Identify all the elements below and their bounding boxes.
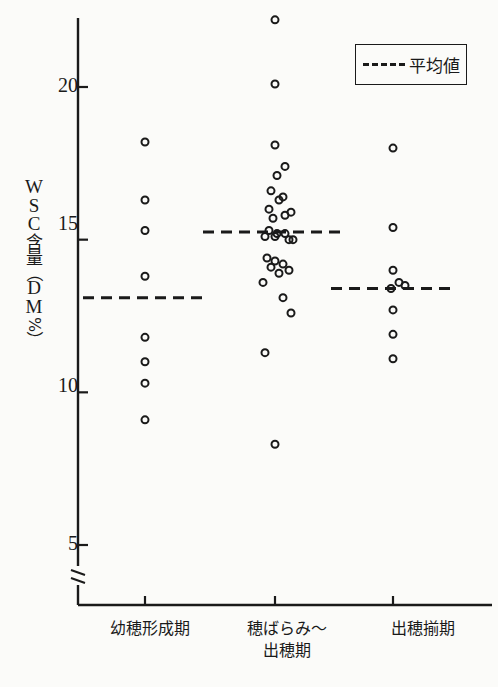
- series-group-3: [388, 145, 409, 363]
- data-point: [142, 334, 149, 341]
- data-point: [142, 196, 149, 203]
- chart-figure: W S C 含 量 （ D M % ） 20 15 10 5 平均値 幼穂形成期…: [0, 0, 498, 687]
- data-point: [268, 187, 275, 194]
- data-point: [274, 172, 281, 179]
- data-point: [266, 206, 273, 213]
- data-point: [272, 142, 279, 149]
- data-point: [276, 270, 283, 277]
- data-point: [262, 233, 269, 240]
- data-point: [262, 349, 269, 356]
- data-point: [142, 227, 149, 234]
- data-point: [264, 254, 271, 261]
- data-point: [286, 267, 293, 274]
- data-point: [390, 331, 397, 338]
- data-point: [142, 358, 149, 365]
- data-point: [288, 309, 295, 316]
- data-point: [272, 80, 279, 87]
- series-group-1: [142, 138, 149, 423]
- data-point: [280, 261, 287, 268]
- data-point: [280, 294, 287, 301]
- data-point: [142, 416, 149, 423]
- data-point: [390, 224, 397, 231]
- data-point: [390, 145, 397, 152]
- data-point: [260, 279, 267, 286]
- axis-break-marker: [71, 570, 85, 583]
- data-point: [282, 212, 289, 219]
- data-point: [282, 163, 289, 170]
- data-point: [390, 355, 397, 362]
- data-point: [272, 441, 279, 448]
- data-point: [268, 264, 275, 271]
- data-point: [142, 380, 149, 387]
- plot-area: [0, 0, 498, 687]
- data-point: [142, 273, 149, 280]
- data-point: [270, 215, 277, 222]
- data-point: [272, 16, 279, 23]
- data-point: [390, 267, 397, 274]
- data-point: [390, 306, 397, 313]
- data-point: [142, 138, 149, 145]
